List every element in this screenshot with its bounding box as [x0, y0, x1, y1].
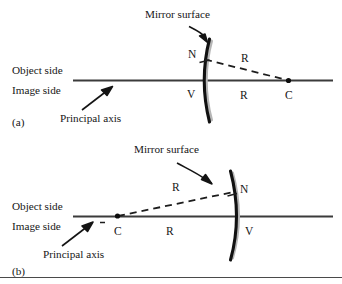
mirror-surface-pointer-arrowhead-b [202, 175, 213, 185]
object-side-label-a: Object side [12, 64, 63, 76]
radius-oblique-label-a: R [241, 52, 249, 64]
optics-figure: Mirror surface Object side Image side Pr… [0, 0, 342, 284]
point-v-label-b: V [245, 225, 254, 237]
image-side-label-b: Image side [12, 220, 61, 232]
point-n-label-a: N [188, 48, 197, 60]
center-of-curvature-dot-a [286, 78, 291, 83]
image-side-label-a: Image side [12, 84, 61, 96]
center-of-curvature-dot-b [115, 213, 120, 218]
object-side-label-b: Object side [12, 200, 63, 212]
principal-axis-label-b: Principal axis [43, 248, 104, 260]
principal-axis-label-a: Principal axis [60, 112, 121, 124]
mirror-surface-pointer-arrowhead-a [200, 34, 208, 43]
radius-axis-label-a: R [240, 89, 248, 101]
panel-label-b: (b) [12, 265, 25, 278]
radius-oblique-label-b: R [172, 181, 180, 193]
panel-label-a: (a) [12, 116, 25, 129]
radius-axis-label-b: R [166, 225, 174, 237]
panel-b: Mirror surface Object side Image side Pr… [12, 143, 333, 278]
point-n-label-b: N [240, 183, 249, 195]
mirror-surface-label-a: Mirror surface [145, 8, 210, 20]
point-c-label-a: C [285, 89, 293, 101]
point-c-label-b: C [114, 225, 122, 237]
figure-canvas: Mirror surface Object side Image side Pr… [0, 0, 342, 284]
radius-dashed-line-b [118, 193, 231, 217]
mirror-surface-label-b: Mirror surface [134, 143, 199, 155]
panel-a: Mirror surface Object side Image side Pr… [12, 8, 333, 129]
point-v-label-a: V [187, 88, 196, 100]
mirror-surface-pointer-curve-b [177, 163, 205, 179]
